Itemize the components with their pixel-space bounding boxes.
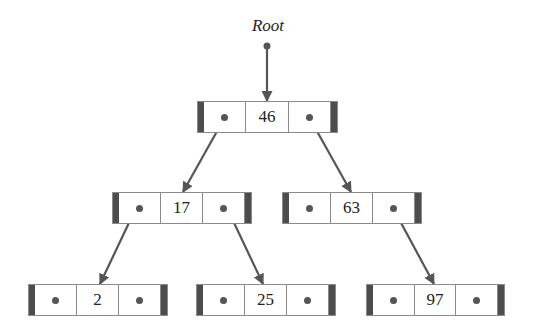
node-right-bar	[330, 102, 337, 132]
node-value: 97	[414, 285, 456, 315]
tree-node-17: 17	[112, 192, 252, 224]
tree-node-97: 97	[366, 284, 505, 316]
left-pointer-cell	[119, 193, 160, 223]
pointer-dot-icon	[52, 297, 59, 304]
node-right-bar	[160, 285, 167, 315]
pointer-dot-icon	[136, 205, 143, 212]
node-right-bar	[328, 285, 335, 315]
pointer-dot-icon	[220, 205, 227, 212]
tree-node-2: 2	[28, 284, 168, 316]
node-value: 25	[244, 285, 286, 315]
tree-node-25: 25	[196, 284, 336, 316]
left-pointer-cell	[204, 102, 245, 132]
node-right-bar	[497, 285, 504, 315]
right-pointer-cell	[288, 102, 330, 132]
node-value: 63	[330, 193, 372, 223]
left-pointer-cell	[289, 193, 330, 223]
pointer-dot-icon	[390, 205, 397, 212]
pointer-dot-icon	[306, 205, 313, 212]
node-right-bar	[244, 193, 251, 223]
pointer-dot-icon	[136, 297, 143, 304]
tree-node-63: 63	[282, 192, 422, 224]
node-right-bar	[414, 193, 421, 223]
pointer-dot-icon	[264, 43, 271, 50]
right-pointer-cell	[455, 285, 497, 315]
node-value: 2	[76, 285, 118, 315]
pointer-dot-icon	[304, 297, 311, 304]
node-value: 17	[160, 193, 202, 223]
right-pointer-cell	[118, 285, 160, 315]
node-value: 46	[245, 102, 287, 132]
right-pointer-cell	[286, 285, 328, 315]
right-pointer-cell	[202, 193, 244, 223]
pointer-dot-icon	[221, 114, 228, 121]
root-label: Root	[245, 16, 291, 36]
binary-search-tree-diagram: Root 46 17 63 2 25	[0, 0, 533, 333]
pointer-dot-icon	[306, 114, 313, 121]
tree-node-46: 46	[197, 101, 338, 133]
pointer-dot-icon	[390, 297, 397, 304]
left-pointer-cell	[35, 285, 76, 315]
pointer-dot-icon	[473, 297, 480, 304]
left-pointer-cell	[373, 285, 414, 315]
right-pointer-cell	[372, 193, 414, 223]
left-pointer-cell	[203, 285, 244, 315]
pointer-dot-icon	[220, 297, 227, 304]
